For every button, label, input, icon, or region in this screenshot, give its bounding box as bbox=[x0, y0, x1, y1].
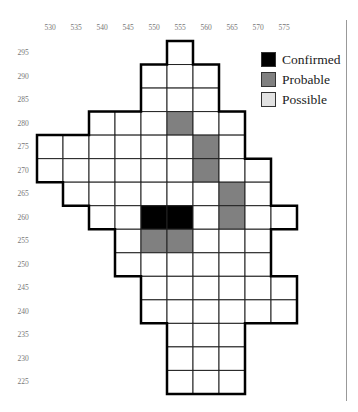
grid-cell-560-280 bbox=[193, 112, 219, 136]
grid-cell-550-240 bbox=[141, 300, 167, 324]
column-label: 530 bbox=[37, 23, 63, 32]
grid-cell-555-290 bbox=[167, 65, 193, 89]
grid-cell-535-270 bbox=[63, 159, 89, 183]
grid-cell-560-235 bbox=[193, 323, 219, 347]
grid-cell-560-265 bbox=[193, 182, 219, 206]
grid-cell-555-275 bbox=[167, 135, 193, 159]
grid-cell-575-245 bbox=[271, 276, 297, 300]
grid-cell-550-275 bbox=[141, 135, 167, 159]
grid-cell-560-290 bbox=[193, 65, 219, 89]
row-label: 230 bbox=[12, 354, 34, 363]
grid-cell-555-250 bbox=[167, 253, 193, 277]
grid-cell-545-280 bbox=[115, 112, 141, 136]
grid-cell-550-270 bbox=[141, 159, 167, 183]
legend-label: Confirmed bbox=[282, 51, 341, 68]
legend-item-probable: Probable bbox=[261, 71, 330, 88]
row-label: 235 bbox=[12, 330, 34, 339]
grid-cell-550-260 bbox=[141, 206, 167, 230]
grid-cell-550-245 bbox=[141, 276, 167, 300]
grid-cell-560-250 bbox=[193, 253, 219, 277]
row-label: 245 bbox=[12, 283, 34, 292]
row-label: 265 bbox=[12, 189, 34, 198]
grid-cell-555-245 bbox=[167, 276, 193, 300]
grid-cell-565-270 bbox=[219, 159, 245, 183]
grid-cell-540-265 bbox=[89, 182, 115, 206]
legend-label: Probable bbox=[282, 71, 330, 88]
grid-cell-555-235 bbox=[167, 323, 193, 347]
possible-swatch-icon bbox=[261, 92, 276, 107]
grid-cell-535-265 bbox=[63, 182, 89, 206]
column-label: 540 bbox=[89, 23, 115, 32]
grid-cell-565-250 bbox=[219, 253, 245, 277]
grid-cell-565-230 bbox=[219, 347, 245, 371]
grid-cell-570-270 bbox=[245, 159, 271, 183]
grid-cell-575-260 bbox=[271, 206, 297, 230]
grid-cell-535-275 bbox=[63, 135, 89, 159]
column-label: 560 bbox=[193, 23, 219, 32]
grid-cell-570-250 bbox=[245, 253, 271, 277]
grid-cell-550-280 bbox=[141, 112, 167, 136]
grid-cell-560-230 bbox=[193, 347, 219, 371]
confirmed-swatch-icon bbox=[261, 52, 276, 67]
grid-cell-555-270 bbox=[167, 159, 193, 183]
grid-cell-565-260 bbox=[219, 206, 245, 230]
grid-cell-545-270 bbox=[115, 159, 141, 183]
row-label: 295 bbox=[12, 48, 34, 57]
grid-cell-560-255 bbox=[193, 229, 219, 253]
row-label: 270 bbox=[12, 166, 34, 175]
grid-cell-550-250 bbox=[141, 253, 167, 277]
grid-cell-550-265 bbox=[141, 182, 167, 206]
column-label: 545 bbox=[115, 23, 141, 32]
row-label: 280 bbox=[12, 119, 34, 128]
row-label: 255 bbox=[12, 236, 34, 245]
column-label: 570 bbox=[245, 23, 271, 32]
grid-cell-560-260 bbox=[193, 206, 219, 230]
grid-cell-550-290 bbox=[141, 65, 167, 89]
column-label: 555 bbox=[167, 23, 193, 32]
grid-cell-570-260 bbox=[245, 206, 271, 230]
grid-cell-570-245 bbox=[245, 276, 271, 300]
grid-cell-565-225 bbox=[219, 370, 245, 394]
grid-cell-555-265 bbox=[167, 182, 193, 206]
grid-cell-570-255 bbox=[245, 229, 271, 253]
grid-cell-555-230 bbox=[167, 347, 193, 371]
grid-cell-550-255 bbox=[141, 229, 167, 253]
grid-cell-565-235 bbox=[219, 323, 245, 347]
grid-cell-560-285 bbox=[193, 88, 219, 112]
grid-cell-565-275 bbox=[219, 135, 245, 159]
legend-item-possible: Possible bbox=[261, 91, 327, 108]
legend-item-confirmed: Confirmed bbox=[261, 51, 341, 68]
grid-cell-555-280 bbox=[167, 112, 193, 136]
grid-cell-540-270 bbox=[89, 159, 115, 183]
grid-cell-565-265 bbox=[219, 182, 245, 206]
grid-cell-565-280 bbox=[219, 112, 245, 136]
row-label: 240 bbox=[12, 307, 34, 316]
grid-cell-545-255 bbox=[115, 229, 141, 253]
grid-cell-555-255 bbox=[167, 229, 193, 253]
column-label: 565 bbox=[219, 23, 245, 32]
grid-cell-560-240 bbox=[193, 300, 219, 324]
column-label: 575 bbox=[271, 23, 297, 32]
row-label: 285 bbox=[12, 95, 34, 104]
grid-cell-545-275 bbox=[115, 135, 141, 159]
grid-cell-555-260 bbox=[167, 206, 193, 230]
grid-cell-540-260 bbox=[89, 206, 115, 230]
grid-cell-565-245 bbox=[219, 276, 245, 300]
grid-cell-545-260 bbox=[115, 206, 141, 230]
legend-label: Possible bbox=[282, 91, 327, 108]
grid-cell-560-245 bbox=[193, 276, 219, 300]
grid-cell-555-225 bbox=[167, 370, 193, 394]
grid-cell-555-285 bbox=[167, 88, 193, 112]
row-label: 225 bbox=[12, 377, 34, 386]
row-label: 290 bbox=[12, 72, 34, 81]
row-label: 275 bbox=[12, 142, 34, 151]
grid-cell-555-295 bbox=[167, 41, 193, 65]
divider-line bbox=[346, 20, 347, 401]
grid-cell-545-250 bbox=[115, 253, 141, 277]
grid-cell-570-265 bbox=[245, 182, 271, 206]
grid-cell-545-265 bbox=[115, 182, 141, 206]
grid-cell-575-240 bbox=[271, 300, 297, 324]
grid-cell-555-240 bbox=[167, 300, 193, 324]
grid-cell-560-275 bbox=[193, 135, 219, 159]
grid-cell-540-280 bbox=[89, 112, 115, 136]
